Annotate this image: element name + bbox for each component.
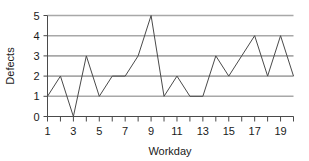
y-tick-label: 5 bbox=[33, 10, 39, 22]
x-tick-label: 7 bbox=[122, 125, 128, 137]
y-tick-label: 1 bbox=[33, 90, 39, 102]
y-tick-label: 0 bbox=[33, 111, 39, 123]
y-tick-label: 4 bbox=[33, 30, 39, 42]
x-axis-title: Workday bbox=[148, 145, 192, 157]
chart-background bbox=[0, 0, 309, 161]
y-tick-label: 3 bbox=[33, 50, 39, 62]
x-tick-label: 13 bbox=[197, 125, 209, 137]
x-tick-label: 15 bbox=[223, 125, 235, 137]
x-tick-label: 9 bbox=[148, 125, 154, 137]
x-tick-label: 5 bbox=[96, 125, 102, 137]
x-tick-label: 19 bbox=[274, 125, 286, 137]
defects-line-chart: 012345 135791113151719 Workday Defects bbox=[0, 0, 309, 161]
x-tick-label: 1 bbox=[44, 125, 50, 137]
chart-canvas: 012345 135791113151719 Workday Defects bbox=[0, 0, 309, 161]
x-tick-label: 17 bbox=[249, 125, 261, 137]
y-tick-label: 2 bbox=[33, 70, 39, 82]
x-tick-label: 11 bbox=[171, 125, 182, 137]
y-axis-title: Defects bbox=[4, 47, 16, 85]
x-tick-label: 3 bbox=[70, 125, 76, 137]
